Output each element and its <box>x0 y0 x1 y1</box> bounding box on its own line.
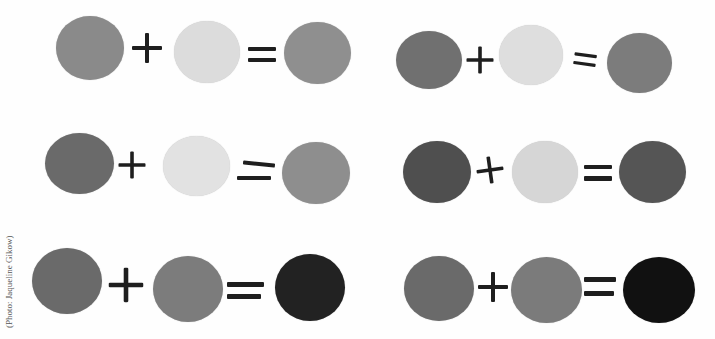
color-disc-result <box>623 257 695 323</box>
color-disc-1 <box>404 256 474 321</box>
color-disc-result <box>284 22 351 84</box>
plus-sign <box>475 155 505 185</box>
color-disc-2 <box>511 257 582 323</box>
color-disc-1 <box>396 31 462 89</box>
color-disc-result <box>282 142 350 204</box>
color-disc-result <box>607 33 672 93</box>
plus-sign <box>467 47 494 74</box>
equals-sign <box>227 280 265 300</box>
plus-sign <box>109 268 144 303</box>
equals-sign <box>573 51 597 70</box>
equals-sign <box>584 163 612 183</box>
color-disc-2 <box>163 136 230 196</box>
color-disc-1 <box>56 16 124 80</box>
plus-sign <box>119 152 146 179</box>
color-disc-result <box>619 141 686 203</box>
color-disc-1 <box>403 141 471 203</box>
plus-sign <box>478 272 508 302</box>
photo-credit: (Photo: Jaqueline Gikow) <box>4 236 14 329</box>
equals-sign <box>237 160 273 180</box>
equals-sign <box>248 45 276 65</box>
color-disc-2 <box>174 21 240 83</box>
color-disc-result <box>275 254 345 321</box>
color-disc-1 <box>45 133 114 194</box>
color-disc-2 <box>499 25 563 85</box>
color-disc-2 <box>153 256 223 322</box>
plus-sign <box>132 33 162 63</box>
color-disc-2 <box>512 141 578 203</box>
color-disc-1 <box>32 248 102 314</box>
equals-sign <box>584 275 616 295</box>
